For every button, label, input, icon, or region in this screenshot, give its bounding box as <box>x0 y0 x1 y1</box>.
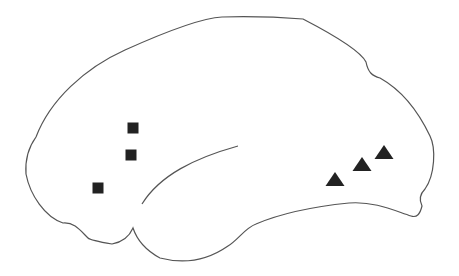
triangle-markers <box>326 145 394 186</box>
triangle-marker-3 <box>375 145 394 159</box>
triangle-marker-1 <box>326 172 345 186</box>
brain-outline <box>26 17 434 261</box>
triangle-marker-2 <box>353 157 372 171</box>
square-markers <box>93 123 139 194</box>
square-marker-2 <box>126 150 137 161</box>
sylvian-fissure-line <box>142 146 238 204</box>
brain-diagram <box>0 0 459 276</box>
brain-diagram-svg <box>0 0 459 276</box>
square-marker-3 <box>93 183 104 194</box>
square-marker-1 <box>128 123 139 134</box>
